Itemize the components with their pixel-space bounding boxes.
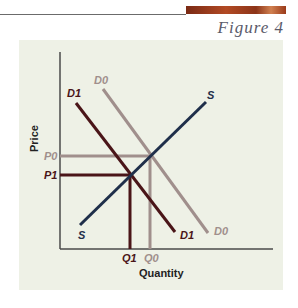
- y-axis-label: Price: [28, 125, 40, 152]
- d0-top-label: D0: [94, 74, 109, 86]
- supply-demand-chart: D0 D1 S S D1 D0 P0 P1 Q1 Q0 Quantity Pri…: [0, 0, 298, 308]
- s-bottom-label: S: [78, 229, 86, 241]
- p0-label: P0: [44, 150, 58, 162]
- q1-label: Q1: [122, 252, 137, 264]
- p1-label: P1: [44, 169, 57, 181]
- d1-top-label: D1: [67, 87, 81, 99]
- q0-label: Q0: [144, 252, 160, 264]
- s-top-label: S: [207, 89, 215, 101]
- x-axis-label: Quantity: [139, 267, 184, 279]
- d1-bottom-label: D1: [180, 229, 194, 241]
- d0-bottom-label: D0: [214, 225, 229, 237]
